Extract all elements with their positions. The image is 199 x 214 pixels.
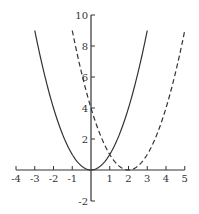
y-tick-label: 6 [82,72,88,83]
curves [35,31,185,171]
dashed-parabola [72,31,185,171]
x-tick-label: 3 [144,173,150,184]
y-tick-label: 4 [82,103,88,114]
y-tick-label: -2 [78,196,88,207]
y-tick-label: 10 [75,10,88,21]
x-tick-label: -4 [11,173,21,184]
x-tick-label: 1 [107,173,113,184]
tick-marks [16,15,185,201]
x-tick-label: -2 [49,173,59,184]
y-tick-label: 8 [82,41,88,52]
tick-labels: -4-3-2-112345-2246810 [11,10,188,207]
x-tick-label: 5 [182,173,188,184]
x-tick-label: -3 [30,173,40,184]
y-tick-label: 2 [82,134,88,145]
x-tick-label: -1 [67,173,77,184]
parabola-chart: -4-3-2-112345-2246810 [0,0,199,214]
x-tick-label: 2 [125,173,131,184]
axes [16,15,185,201]
x-tick-label: 4 [163,173,169,184]
